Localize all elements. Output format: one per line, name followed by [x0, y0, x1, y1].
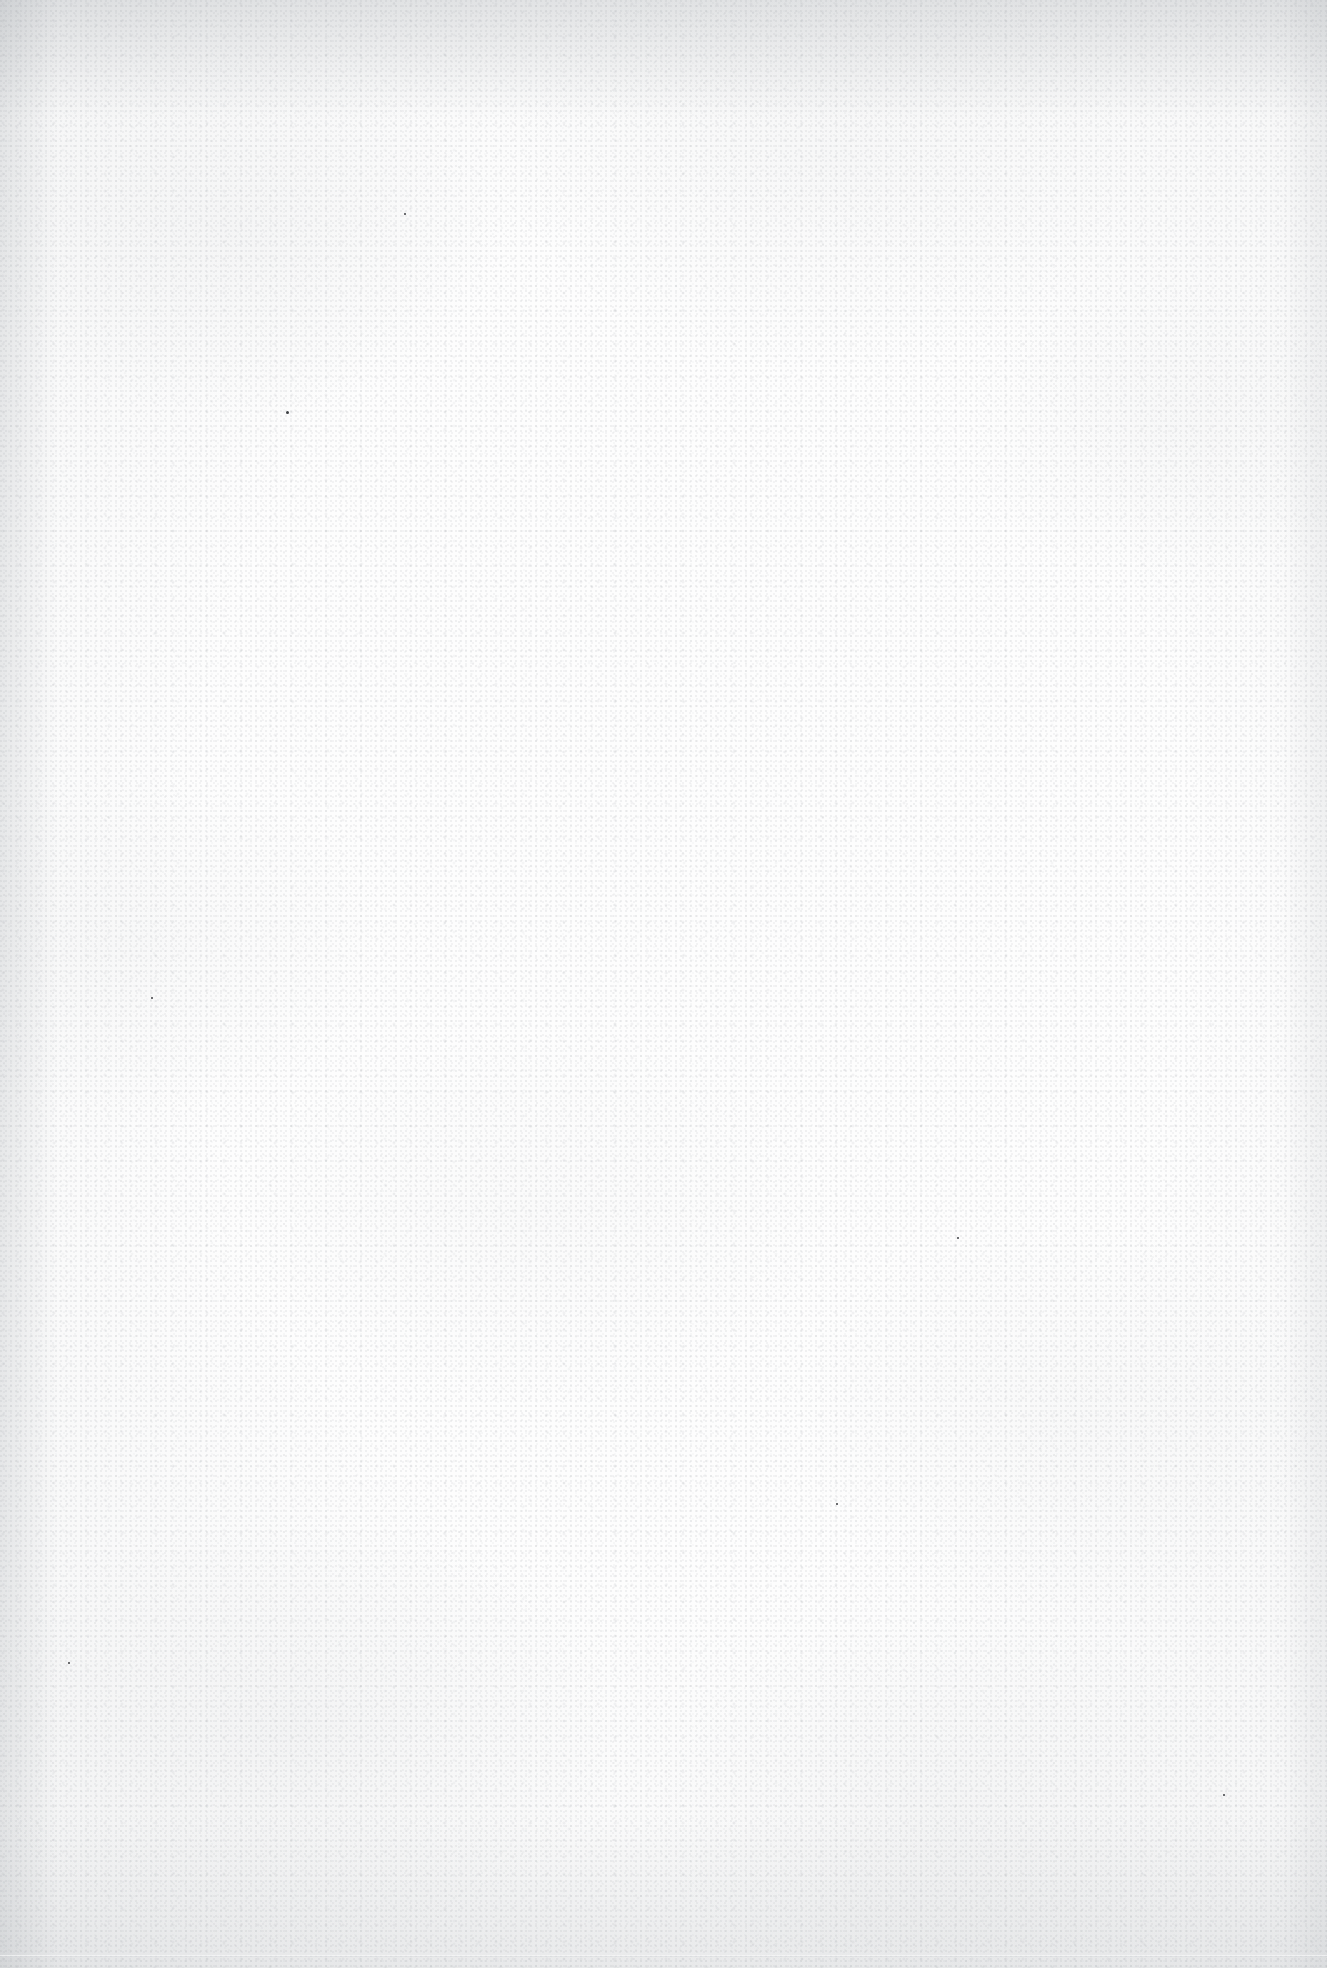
scan-bottom-seam	[0, 1955, 1327, 1957]
scan-edge-right	[1281, 0, 1327, 1968]
scan-edge-left	[0, 0, 58, 1968]
paper-vignette	[0, 0, 1327, 1968]
scan-edge-top	[0, 0, 1327, 120]
dust-speck	[68, 1662, 70, 1664]
dust-speck	[151, 997, 153, 999]
dust-speck	[286, 411, 289, 414]
scan-edge-bottom	[0, 1818, 1327, 1968]
scanned-page	[0, 0, 1327, 1968]
dust-speck	[957, 1237, 959, 1239]
dust-speck	[1223, 1794, 1225, 1796]
dust-speck	[836, 1503, 838, 1505]
dust-speck	[404, 213, 406, 215]
